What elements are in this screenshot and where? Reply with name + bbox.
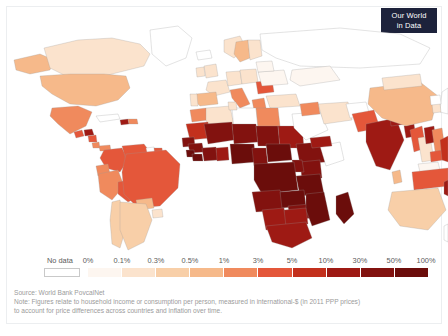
legend-tick: 50% bbox=[387, 256, 402, 265]
map-region[interactable]: Japan: no data bbox=[440, 88, 448, 114]
map-region[interactable]: Costa Rica: 1%-3% bbox=[92, 142, 100, 148]
map-svg: Alaska: 0.5%-1%Canada: 0.1%-0.3%Greenlan… bbox=[0, 14, 448, 252]
map-region[interactable]: North Korea: no data bbox=[430, 95, 441, 105]
map-region[interactable]: Sweden: 0.5%-1% bbox=[234, 40, 250, 62]
map-region[interactable]: Tunisia: 0.1%-0.3% bbox=[228, 102, 237, 110]
map-region[interactable]: Germany: 0.1%-0.3% bbox=[226, 71, 242, 86]
map-region[interactable]: Egypt: 1%-3% bbox=[256, 108, 280, 128]
map-region[interactable]: United Kingdom: 0.1%-0.3% bbox=[204, 64, 218, 78]
legend-bin[interactable] bbox=[190, 268, 224, 277]
legend-bin[interactable] bbox=[293, 268, 327, 277]
map-region[interactable]: India: 10%-30% bbox=[366, 118, 404, 170]
map-region[interactable]: Australia: 0.3%-0.5% bbox=[388, 188, 446, 230]
map-region[interactable]: Finland: 0.1%-0.3% bbox=[248, 40, 262, 60]
legend-tick: 5% bbox=[287, 256, 298, 265]
map-region[interactable]: Indonesia: 3%-5% bbox=[412, 168, 448, 190]
legend-tick: 0.1% bbox=[114, 256, 131, 265]
map-region[interactable]: Ghana: 10%-30% bbox=[216, 147, 229, 161]
map-region[interactable]: Russia: no data bbox=[260, 28, 430, 68]
legend-tick: 30% bbox=[353, 256, 368, 265]
map-region[interactable]: Nicaragua: 3%-5% bbox=[88, 135, 97, 142]
map-region[interactable]: Haiti: 10%-30% bbox=[120, 119, 129, 125]
map-region[interactable]: Belarus: 0%-0.1% bbox=[256, 61, 274, 72]
map-region[interactable]: Liberia: 50%-100% bbox=[192, 154, 203, 161]
map-region[interactable]: Canada: 0.1%-0.3% bbox=[44, 38, 150, 78]
map-region[interactable]: Mozambique: 50%-100% bbox=[306, 192, 330, 226]
legend-bin[interactable] bbox=[122, 268, 156, 277]
map-region[interactable]: Iceland: no data bbox=[196, 50, 212, 60]
map-region[interactable]: Poland: 0.1%-0.3% bbox=[240, 69, 258, 84]
legend-bin[interactable] bbox=[395, 268, 428, 277]
legend-bin[interactable] bbox=[258, 268, 292, 277]
legend-bin[interactable] bbox=[327, 268, 361, 277]
map-region[interactable]: Honduras: 10%-30% bbox=[84, 129, 94, 136]
legend-tick: 0% bbox=[83, 256, 94, 265]
map-region[interactable]: Papua New Guinea: 10%-30% bbox=[444, 180, 448, 196]
map-region[interactable]: Uruguay: 0.1%-0.3% bbox=[152, 209, 163, 218]
map-region[interactable]: Niger: 30%-50% bbox=[232, 124, 258, 144]
map-region[interactable]: Dominican Republic: 1%-3% bbox=[128, 119, 138, 124]
world-map-chart: Our World in Data Alaska: 0.5%-1%Canada:… bbox=[0, 0, 448, 336]
legend-no-data-swatch[interactable] bbox=[44, 268, 80, 277]
legend-tick: 100% bbox=[417, 256, 436, 265]
map-region[interactable]: Ivory Coast: 30%-50% bbox=[202, 147, 218, 161]
choropleth-map[interactable]: Alaska: 0.5%-1%Canada: 0.1%-0.3%Greenlan… bbox=[0, 14, 448, 252]
legend-bin[interactable] bbox=[224, 268, 258, 277]
map-region[interactable]: South Africa: 10%-30% bbox=[266, 222, 312, 248]
legend-color-scale[interactable] bbox=[88, 268, 428, 277]
footer-note-line-2: to account for price differences across … bbox=[14, 306, 434, 315]
map-region[interactable]: Cuba: no data bbox=[96, 114, 120, 122]
map-region[interactable]: New Zealand: no data bbox=[444, 224, 448, 242]
legend-labels: No data 0% 0.1% 0.3% 0.5% 1% 3% 5% 10% 3… bbox=[0, 256, 448, 267]
footer-source: Source: World Bank PovcalNet bbox=[14, 288, 434, 297]
map-region[interactable]: Ireland: 0.1%-0.3% bbox=[196, 67, 205, 77]
map-region[interactable]: Kazakhstan: 0%-0.1% bbox=[290, 66, 340, 86]
legend-bin[interactable] bbox=[156, 268, 190, 277]
legend-tick: 1% bbox=[219, 256, 230, 265]
legend-bin[interactable] bbox=[88, 268, 122, 277]
map-region[interactable]: DR Congo: 50%-100% bbox=[254, 162, 298, 194]
map-region[interactable]: Argentina: 0.3%-0.5% bbox=[120, 202, 152, 250]
chart-footer: Source: World Bank PovcalNet Note: Figur… bbox=[14, 288, 434, 316]
map-region[interactable]: Nigeria: 50%-100% bbox=[230, 144, 256, 164]
legend-tick: 10% bbox=[319, 256, 334, 265]
legend-tick: 3% bbox=[253, 256, 264, 265]
map-region[interactable]: Madagascar: 50%-100% bbox=[336, 192, 354, 224]
map-region[interactable]: Yemen: 10%-30% bbox=[310, 136, 332, 148]
map-region[interactable]: Central African Republic: 50%-100% bbox=[266, 144, 292, 162]
legend-tick: 0.3% bbox=[148, 256, 165, 265]
map-region[interactable]: Iraq: 1%-3% bbox=[300, 102, 320, 116]
map-region[interactable]: Ukraine: 0%-0.1% bbox=[258, 70, 288, 86]
map-region[interactable]: Sri Lanka: 0.5%-1% bbox=[392, 170, 402, 184]
footer-note-line-1: Note: Figures relate to household income… bbox=[14, 297, 434, 306]
legend-bars bbox=[0, 268, 448, 277]
legend-no-data-label: No data bbox=[47, 256, 73, 265]
map-legend: No data 0% 0.1% 0.3% 0.5% 1% 3% 5% 10% 3… bbox=[0, 256, 448, 282]
map-region[interactable]: China: 0.5%-1% bbox=[368, 82, 438, 126]
map-region[interactable]: Greenland: no data bbox=[150, 26, 192, 66]
map-region[interactable]: Chad: 30%-50% bbox=[256, 126, 280, 146]
legend-tick: 0.5% bbox=[182, 256, 199, 265]
map-region[interactable]: Morocco: 1%-3% bbox=[190, 108, 208, 122]
legend-bin[interactable] bbox=[361, 268, 395, 277]
map-region[interactable]: United States: 0.5%-1% bbox=[40, 74, 130, 106]
map-region[interactable]: Portugal: 0.1%-0.3% bbox=[190, 94, 198, 106]
map-region[interactable]: Mali: 30%-50% bbox=[204, 122, 234, 144]
map-region[interactable]: Turkey: 0.1%-0.3% bbox=[266, 94, 300, 108]
